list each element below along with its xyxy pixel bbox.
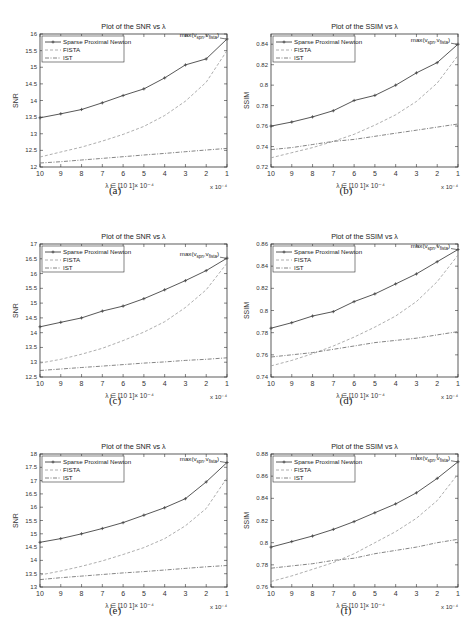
data-point-marker xyxy=(332,109,335,112)
x-tick-label: 4 xyxy=(163,170,167,177)
x-tick-label: 10 xyxy=(267,590,275,597)
legend-label: Sparse Proximal Newton xyxy=(63,458,132,465)
y-tick-label: 0.82 xyxy=(256,518,268,524)
data-point-marker xyxy=(311,534,314,537)
max-annotation: max(vspn,vfista) xyxy=(411,454,450,463)
chart-title: Plot of the SSIM vs λ xyxy=(331,442,398,451)
x-tick-label: 10 xyxy=(36,590,44,597)
y-tick-label: 16 xyxy=(30,504,37,510)
y-tick-label: 14.5 xyxy=(25,81,37,87)
y-tick-label: 0.74 xyxy=(256,144,268,150)
legend: Sparse Proximal NewtonFISTAIST xyxy=(273,456,363,482)
data-point-marker xyxy=(101,101,104,104)
legend: Sparse Proximal NewtonFISTAIST xyxy=(42,36,132,62)
y-axis-label: SSIM xyxy=(243,512,250,529)
data-point-marker xyxy=(163,288,166,291)
data-point-marker xyxy=(142,87,145,90)
legend-label: Sparse Proximal Newton xyxy=(63,38,132,45)
data-point-marker xyxy=(373,94,376,97)
y-tick-label: 0.78 xyxy=(256,330,268,336)
x-tick-label: 1 xyxy=(456,380,460,387)
series-fista xyxy=(271,56,458,158)
x-tick-label: 3 xyxy=(183,380,187,387)
y-tick-label: 13 xyxy=(30,131,37,137)
legend-label: IST xyxy=(63,264,73,271)
data-point-marker xyxy=(332,310,335,313)
legend-label: Sparse Proximal Newton xyxy=(63,248,132,255)
data-point-marker xyxy=(290,321,293,324)
max-annotation: max(vspn,vfista) xyxy=(180,455,219,464)
x-tick-label: 6 xyxy=(121,380,125,387)
y-tick-label: 0.8 xyxy=(260,82,269,88)
y-tick-label: 14 xyxy=(30,98,37,104)
x-tick-label: 8 xyxy=(80,590,84,597)
y-tick-label: 14 xyxy=(30,330,37,336)
x-tick-label: 8 xyxy=(311,170,315,177)
y-tick-label: 0.78 xyxy=(256,103,268,109)
data-point-marker xyxy=(353,520,356,523)
series-fista xyxy=(271,474,458,582)
y-tick-label: 17 xyxy=(30,478,37,484)
legend-label: FISTA xyxy=(63,466,81,473)
chart-panel-f: Plot of the SSIM vs λ0.760.780.80.820.84… xyxy=(231,420,461,630)
y-tick-label: 16 xyxy=(30,271,37,277)
x-tick-label: 7 xyxy=(100,380,104,387)
y-tick-label: 14.5 xyxy=(25,544,37,550)
data-point-marker xyxy=(394,282,397,285)
chart-title: Plot of the SNR vs λ xyxy=(101,442,166,451)
y-tick-label: 0.84 xyxy=(256,495,268,501)
x-tick-label: 3 xyxy=(414,590,418,597)
y-tick-label: 15.5 xyxy=(25,285,37,291)
data-point-marker xyxy=(332,528,335,531)
legend-label: FISTA xyxy=(63,256,81,263)
y-axis-label: SSIM xyxy=(243,302,250,319)
chart-svg-b: Plot of the SSIM vs λ0.720.740.760.780.8… xyxy=(231,0,461,210)
chart-svg-d: Plot of the SSIM vs λ0.740.760.780.80.82… xyxy=(231,210,461,420)
chart-title: Plot of the SNR vs λ xyxy=(101,22,166,31)
x-tick-label: 2 xyxy=(435,380,439,387)
y-tick-label: 0.82 xyxy=(256,62,268,68)
x-tick-label: 9 xyxy=(290,170,294,177)
series-ist xyxy=(40,358,227,371)
chart-title: Plot of the SSIM vs λ xyxy=(331,232,398,241)
y-tick-label: 17.5 xyxy=(25,464,37,470)
legend-label: IST xyxy=(294,474,304,481)
y-tick-label: 15 xyxy=(30,300,37,306)
data-point-marker xyxy=(122,94,125,97)
y-tick-label: 0.8 xyxy=(260,308,269,314)
x-tick-label: 1 xyxy=(456,170,460,177)
legend: Sparse Proximal NewtonFISTAIST xyxy=(42,456,132,482)
data-point-marker xyxy=(80,316,83,319)
y-axis-label: SSIM xyxy=(243,92,250,109)
x-tick-label: 10 xyxy=(267,170,275,177)
x-tick-label: 7 xyxy=(100,590,104,597)
y-tick-label: 16.5 xyxy=(25,491,37,497)
chart-panel-a: Plot of the SNR vs λ1212.51313.51414.515… xyxy=(0,0,230,210)
x-tick-label: 2 xyxy=(435,170,439,177)
x-tick-label: 10 xyxy=(36,170,44,177)
y-tick-label: 0.76 xyxy=(256,352,268,358)
legend-label: Sparse Proximal Newton xyxy=(294,248,363,255)
data-point-marker xyxy=(269,124,272,127)
x-tick-label: 9 xyxy=(59,380,63,387)
data-point-marker xyxy=(80,108,83,111)
series-ist xyxy=(271,332,458,357)
legend-label: FISTA xyxy=(294,256,312,263)
data-point-marker xyxy=(290,120,293,123)
y-tick-label: 13 xyxy=(30,359,37,365)
x-tick-label: 6 xyxy=(352,590,356,597)
chart-title: Plot of the SNR vs λ xyxy=(101,232,166,241)
y-tick-label: 14 xyxy=(30,557,37,563)
x-tick-label: 4 xyxy=(163,380,167,387)
x-tick-label: 5 xyxy=(373,380,377,387)
caption-e: (e) xyxy=(0,604,230,616)
x-tick-label: 8 xyxy=(311,590,315,597)
x-tick-label: 6 xyxy=(352,380,356,387)
x-tick-label: 8 xyxy=(80,380,84,387)
legend: Sparse Proximal NewtonFISTAIST xyxy=(273,36,363,62)
x-tick-label: 8 xyxy=(311,380,315,387)
x-tick-label: 5 xyxy=(142,380,146,387)
x-tick-label: 6 xyxy=(121,590,125,597)
x-tick-label: 5 xyxy=(373,590,377,597)
x-tick-label: 4 xyxy=(394,380,398,387)
